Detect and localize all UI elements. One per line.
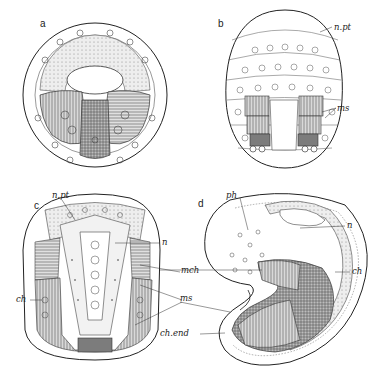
panel-a-letter: a [40, 18, 46, 29]
label-b-neural-plate: n.pt [334, 22, 351, 32]
label-d-chorda-endoderm: ch.end [160, 328, 189, 338]
label-c-chorda: ch [16, 294, 26, 304]
embryo-figure: a b c d n.pt ms n.pt n mch ms ch ph n ch… [0, 0, 381, 386]
panel-c-drawing [23, 194, 182, 360]
label-d-neural: n [347, 220, 352, 230]
label-c-neural: n [162, 237, 167, 247]
panel-c-letter: c [34, 200, 39, 211]
label-d-pharynx: ph [226, 190, 237, 200]
label-c-mch: mch [181, 265, 199, 275]
panel-a-drawing [23, 23, 167, 167]
panel-b-drawing [226, 10, 343, 168]
panel-d-drawing [160, 194, 367, 366]
label-c-mesoderm: ms [180, 293, 192, 303]
label-d-chorda: ch [352, 266, 362, 276]
panel-b-letter: b [218, 18, 224, 29]
label-c-neural-plate: n.pt [52, 190, 69, 200]
panel-d-letter: d [198, 198, 204, 209]
label-b-mesoderm: ms [337, 103, 349, 113]
